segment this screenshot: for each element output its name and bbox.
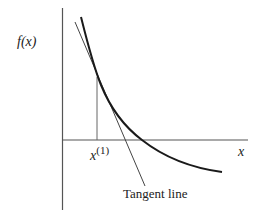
x1-label: x(1) (89, 144, 109, 163)
tangent-line-label: Tangent line (123, 186, 188, 201)
x1-label-sup: (1) (96, 144, 109, 157)
y-axis-label: f(x) (17, 34, 37, 50)
x-axis-label: x (237, 144, 245, 159)
newton-method-diagram: f(x) x x(1) Tangent line (0, 0, 260, 217)
